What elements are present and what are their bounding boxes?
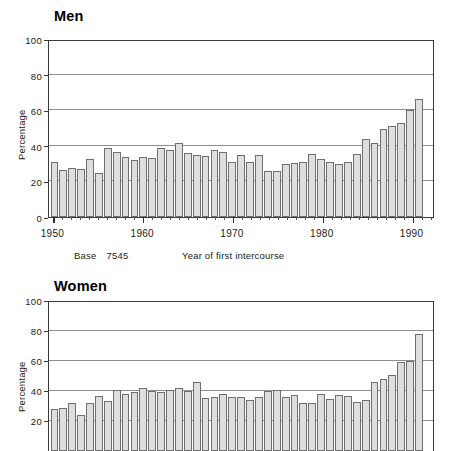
bar <box>397 362 405 451</box>
bar <box>255 397 263 451</box>
bar <box>95 396 103 451</box>
x-tick-minor <box>152 217 153 220</box>
bar <box>122 394 130 451</box>
x-tick-label: 1950 <box>41 228 64 239</box>
plot-area-men <box>48 40 434 218</box>
bar <box>175 388 183 451</box>
bar <box>415 334 423 451</box>
y-axis-label-men: Percentage <box>16 109 27 160</box>
bar <box>246 400 254 451</box>
x-tick-minor <box>107 217 108 220</box>
bar <box>166 390 174 451</box>
x-tick-minor <box>395 217 396 220</box>
y-tick-label: 80 <box>12 70 42 81</box>
bar <box>388 126 396 217</box>
bar <box>362 400 370 451</box>
bar <box>131 160 139 217</box>
x-tick-minor <box>260 217 261 220</box>
bar <box>326 399 334 451</box>
x-tick-minor <box>287 217 288 220</box>
bar <box>308 403 316 451</box>
bar <box>228 162 236 217</box>
x-tick-minor <box>278 217 279 220</box>
bar <box>362 139 370 217</box>
x-tick-label: 1990 <box>400 228 423 239</box>
bar <box>282 164 290 217</box>
bar <box>86 403 94 451</box>
chart-panel-men: Men Percentage 020406080100 195019601970… <box>0 0 454 272</box>
y-tick-label: 40 <box>12 386 42 397</box>
bar <box>282 397 290 451</box>
bar <box>202 398 210 451</box>
x-tick-label: 1980 <box>310 228 333 239</box>
x-tick-minor <box>80 217 81 220</box>
chart-title-men: Men <box>54 8 84 24</box>
bar-series-men <box>49 41 433 217</box>
bar <box>219 394 227 451</box>
y-tick-label: 100 <box>12 296 42 307</box>
bar <box>291 395 299 451</box>
y-tick-label: 60 <box>12 356 42 367</box>
bar <box>59 408 67 451</box>
x-tick-minor <box>332 217 333 220</box>
bar <box>273 390 281 451</box>
y-tick-label: 20 <box>12 416 42 427</box>
bar <box>371 143 379 217</box>
bar <box>86 159 94 217</box>
x-tick-major <box>323 217 324 223</box>
x-tick-minor <box>404 217 405 220</box>
y-tick-label: 0 <box>12 213 42 224</box>
x-tick-minor <box>269 217 270 220</box>
x-tick-minor <box>98 217 99 220</box>
bar <box>237 397 245 451</box>
bar <box>335 164 343 217</box>
bar <box>95 173 103 217</box>
bar <box>139 157 147 217</box>
chart-title-women: Women <box>54 278 107 294</box>
bar <box>353 402 361 451</box>
bar <box>59 170 67 217</box>
bar <box>299 403 307 451</box>
x-tick-minor <box>215 217 216 220</box>
x-tick-major <box>143 217 144 223</box>
bar <box>184 391 192 451</box>
x-tick-minor <box>224 217 225 220</box>
bar <box>104 401 112 451</box>
bar <box>264 171 272 217</box>
x-tick-minor <box>242 217 243 220</box>
bar <box>148 391 156 451</box>
bar <box>317 159 325 217</box>
bar <box>380 129 388 217</box>
bar <box>291 163 299 217</box>
y-tick-label: 80 <box>12 326 42 337</box>
base-value: 7545 <box>106 250 128 261</box>
x-tick-label: 1960 <box>131 228 154 239</box>
bar <box>255 155 263 217</box>
bar <box>104 148 112 217</box>
bar <box>380 379 388 451</box>
bar <box>113 390 121 451</box>
x-tick-minor <box>161 217 162 220</box>
bar-series-women <box>49 302 433 451</box>
bar <box>131 392 139 451</box>
bar <box>211 397 219 451</box>
bar <box>175 143 183 217</box>
x-tick-minor <box>377 217 378 220</box>
base-note-men: Base7545 <box>74 250 128 261</box>
bar <box>344 162 352 217</box>
bar <box>371 382 379 451</box>
bar <box>122 157 130 217</box>
bar <box>317 394 325 451</box>
y-tick-label: 40 <box>12 141 42 152</box>
x-tick-minor <box>305 217 306 220</box>
x-tick-minor <box>206 217 207 220</box>
bar <box>68 403 76 451</box>
bar <box>193 382 201 451</box>
bar <box>184 153 192 217</box>
x-tick-minor <box>368 217 369 220</box>
bar <box>157 392 165 451</box>
bar <box>237 155 245 217</box>
bar <box>344 396 352 451</box>
bar <box>353 154 361 217</box>
bar <box>139 388 147 451</box>
